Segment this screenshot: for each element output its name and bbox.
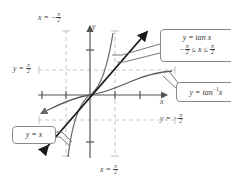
callout-arctan: y = tan−1x <box>176 82 231 102</box>
label-x-pos-half-pi: x = π2 <box>100 164 118 177</box>
domain-mid: ≤ x ≤ <box>190 45 210 54</box>
frac-den: 2 <box>185 50 190 56</box>
label-y-pos-half-pi: y = π2 <box>13 63 31 76</box>
label-y-neg-half-pi-prefix: y = − <box>160 114 178 123</box>
asymptote-guides <box>38 30 176 157</box>
frac-den: 2 <box>178 119 183 125</box>
callout-tan-line1: y = tan x <box>163 33 231 43</box>
callout-arctan-arg: x <box>219 88 223 97</box>
callout-identity: y = x <box>12 126 56 144</box>
x-axis-label: x <box>160 97 164 106</box>
frac-den: 2 <box>56 18 61 24</box>
callout-arctan-base: y = tan <box>190 88 213 97</box>
callout-tan: y = tan x −π2 ≤ x ≤ π2 <box>160 29 231 62</box>
frac-den: 2 <box>113 170 118 176</box>
label-x-pos-half-pi-prefix: x = <box>100 165 113 174</box>
callout-tan-domain: −π2 ≤ x ≤ π2 <box>163 44 231 57</box>
math-figure: x y x = −π2 x = π2 y = π2 y = −π2 y = ta… <box>0 0 231 184</box>
label-y-neg-half-pi: y = −π2 <box>160 113 183 126</box>
frac-den: 2 <box>26 69 31 75</box>
label-x-neg-half-pi-prefix: x = − <box>38 13 56 22</box>
line-identity <box>47 33 146 147</box>
label-x-neg-half-pi: x = −π2 <box>38 12 61 25</box>
label-y-pos-half-pi-prefix: y = <box>13 64 26 73</box>
frac-den: 2 <box>210 50 215 56</box>
y-axis-label: y <box>92 22 96 31</box>
